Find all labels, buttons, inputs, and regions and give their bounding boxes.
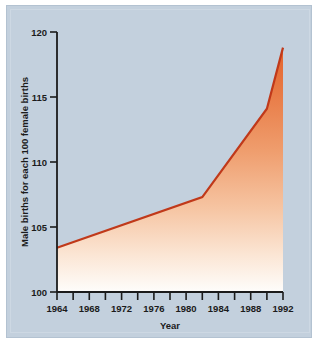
area-chart: 120 115 110 105 100 1964 1968 1972 1976 … [0, 0, 319, 345]
x-tick-label: 1988 [240, 303, 261, 314]
chart-figure: 120 115 110 105 100 1964 1968 1972 1976 … [0, 0, 319, 345]
y-tick-label: 110 [32, 157, 47, 168]
y-axis-ticks [50, 32, 57, 292]
area-series-fill [57, 48, 283, 292]
y-tick-labels: 120 115 110 105 100 [31, 27, 48, 298]
x-axis-title: Year [160, 320, 180, 331]
y-tick-label: 100 [31, 287, 47, 298]
x-tick-label: 1992 [272, 303, 293, 314]
x-tick-label: 1972 [111, 303, 132, 314]
x-tick-label: 1976 [143, 303, 164, 314]
x-tick-label: 1968 [79, 303, 100, 314]
y-axis-title: Male births for each 100 female births [19, 77, 30, 247]
x-axis-ticks [57, 292, 283, 300]
y-tick-label: 120 [31, 27, 47, 38]
x-tick-labels: 1964 1968 1972 1976 1980 1984 1988 1992 [46, 303, 293, 314]
y-tick-label: 105 [31, 222, 48, 233]
x-tick-label: 1980 [176, 303, 197, 314]
x-tick-label: 1984 [208, 303, 230, 314]
y-tick-label: 115 [32, 92, 48, 103]
x-tick-label: 1964 [46, 303, 68, 314]
